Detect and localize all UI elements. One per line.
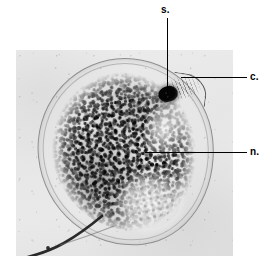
leader-line-cytostome [181, 77, 247, 78]
label-stigma: s. [161, 5, 170, 15]
leader-line-nucleus [145, 152, 247, 153]
leader-line-stigma [167, 18, 168, 95]
label-nucleus: n. [250, 147, 259, 157]
figure-root: s. c. n. [0, 0, 273, 266]
flagellum [16, 210, 134, 256]
label-cytostome: c. [250, 72, 259, 82]
